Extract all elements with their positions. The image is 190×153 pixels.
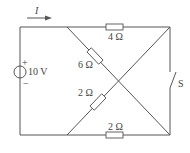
- current-label: I: [34, 5, 39, 16]
- circuit-diagram: I + − 10 V 4 Ω 2 Ω S 6 Ω 2 Ω: [0, 0, 190, 153]
- switch-icon: [170, 72, 176, 88]
- resistor-diag-upper-label: 6 Ω: [78, 59, 93, 70]
- resistor-4ohm-icon: [106, 24, 123, 30]
- resistor-2ohm-bottom-icon: [106, 132, 123, 138]
- source-label: 10 V: [28, 66, 48, 77]
- source-minus: −: [23, 78, 29, 89]
- current-arrow: [27, 16, 52, 21]
- resistor-bottom-label: 2 Ω: [108, 121, 123, 132]
- resistor-top-label: 4 Ω: [108, 31, 123, 42]
- resistor-diag-lower-label: 2 Ω: [78, 87, 93, 98]
- switch-label: S: [178, 78, 184, 89]
